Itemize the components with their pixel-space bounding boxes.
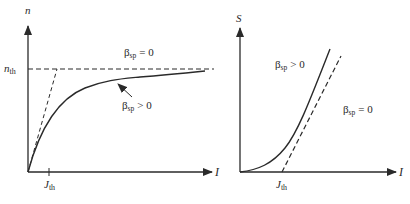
beta-zero-dashed-line-right [282,56,341,172]
n-threshold-label: nth [4,62,16,76]
right-beta-zero-label: βsp= 0 [343,103,373,117]
right-beta-positive-label: βsp> 0 [275,58,305,72]
beta-positive-pointer-arrow [118,84,132,97]
left-y-axis-label: n [25,4,31,16]
left-jth-label: Jth [44,178,55,192]
right-y-axis-label: S [236,12,242,24]
right-jth-label: Jth [276,178,287,192]
right-x-axis-label: I [398,165,404,179]
left-beta-zero-label: βsp= 0 [124,46,154,60]
right-panel-photon-number: S I Jth βsp> 0 βsp= 0 [236,12,404,192]
beta-positive-curve-left [28,71,205,172]
left-panel-carrier-density: n I nth Jth βsp= 0 βsp> 0 [4,4,220,192]
left-x-axis-label: I [214,165,220,179]
left-beta-positive-label: βsp> 0 [122,99,152,113]
laser-threshold-diagram: n I nth Jth βsp= 0 βsp> 0 S I Jth βsp> 0 [0,0,410,204]
